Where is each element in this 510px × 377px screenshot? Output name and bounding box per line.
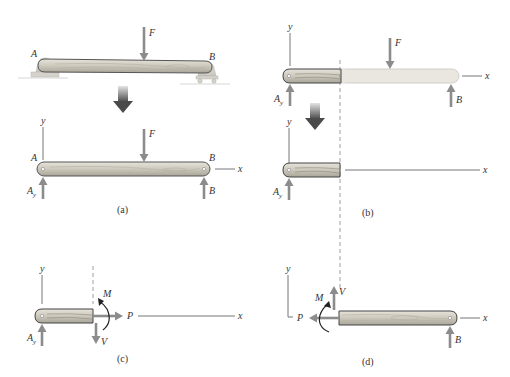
pin-hole-icon	[202, 167, 205, 170]
caption-c: (c)	[117, 353, 128, 365]
label-point-a: A	[30, 152, 38, 163]
beam-right-segment	[339, 311, 457, 325]
label-axis-y: y	[285, 263, 291, 274]
label-shear-v: V	[101, 336, 109, 347]
reaction-b-arrow	[200, 177, 209, 199]
shear-force-v-arrow	[330, 286, 339, 310]
panel-b-left-segment-fbd: y x Ay (b)	[272, 116, 488, 219]
pin-hole-icon	[448, 316, 451, 319]
transition-arrow-icon	[113, 86, 133, 113]
beam-left-segment	[35, 309, 93, 323]
label-reaction-b: B	[456, 94, 462, 105]
reaction-b-arrow	[447, 84, 456, 107]
y-axis	[288, 275, 293, 317]
method-of-sections-diagram: F A B y x F A B Ay	[0, 0, 510, 377]
beam-left-segment	[283, 69, 341, 83]
label-reaction-b: B	[455, 334, 461, 345]
label-reaction-ay: Ay	[272, 186, 283, 200]
label-load-f: F	[148, 128, 156, 139]
load-f-arrow	[140, 129, 149, 162]
beam-wood	[37, 162, 210, 176]
caption-b: (b)	[362, 207, 374, 219]
label-axis-y: y	[286, 116, 292, 127]
moment-m-arrow	[319, 301, 331, 332]
beam-wood	[38, 59, 212, 73]
reaction-ay-arrow	[285, 178, 294, 200]
load-f-arrow	[140, 27, 149, 61]
label-normal-p: P	[126, 310, 133, 321]
caption-a: (a)	[117, 204, 128, 216]
label-axis-y: y	[287, 21, 293, 32]
label-axis-x: x	[482, 164, 488, 175]
panel-a-supported-beam: F A B	[18, 27, 230, 84]
label-shear-v: V	[339, 286, 347, 297]
label-reaction-b: B	[209, 185, 215, 196]
label-point-a: A	[30, 48, 38, 59]
label-point-b: B	[209, 152, 215, 163]
panel-d-internal-forces-right: y x P V M B	[285, 263, 488, 368]
panel-b-sectioned-beam: y x F Ay B	[273, 21, 490, 107]
caption-d: (d)	[362, 356, 374, 368]
reaction-ay-arrow	[38, 324, 47, 346]
label-load-f: F	[394, 37, 402, 48]
reaction-ay-arrow	[39, 177, 48, 199]
label-moment-m: M	[102, 288, 112, 299]
label-axis-y: y	[39, 263, 45, 274]
label-load-f: F	[148, 27, 156, 38]
reaction-b-arrow	[446, 326, 455, 348]
panel-a-free-body-diagram: y x F A B Ay B (a)	[26, 115, 243, 216]
shear-force-v-arrow	[92, 323, 101, 344]
normal-force-p-arrow	[309, 314, 339, 323]
pin-hole-icon	[287, 168, 290, 171]
label-normal-p: P	[296, 312, 303, 323]
pin-hole-icon	[287, 74, 290, 77]
label-moment-m: M	[314, 292, 324, 303]
pin-hole-icon	[40, 314, 43, 317]
label-axis-x: x	[482, 312, 488, 323]
beam-ghost-segment	[335, 69, 459, 83]
label-axis-x: x	[237, 163, 243, 174]
label-reaction-ay: Ay	[26, 332, 37, 346]
transition-arrow-icon	[305, 103, 325, 130]
label-reaction-ay: Ay	[273, 93, 284, 107]
label-point-b: B	[209, 51, 215, 62]
label-axis-x: x	[237, 310, 243, 321]
load-f-arrow	[386, 38, 395, 69]
label-axis-y: y	[40, 115, 46, 126]
label-reaction-ay: Ay	[26, 185, 37, 199]
pin-hole-icon	[41, 167, 44, 170]
label-axis-x: x	[484, 70, 490, 81]
beam-left-segment	[283, 163, 340, 177]
reaction-ay-arrow	[286, 84, 295, 106]
moment-m-arrow	[98, 298, 109, 330]
panel-c-internal-forces-left: y x P V M Ay	[26, 263, 243, 365]
